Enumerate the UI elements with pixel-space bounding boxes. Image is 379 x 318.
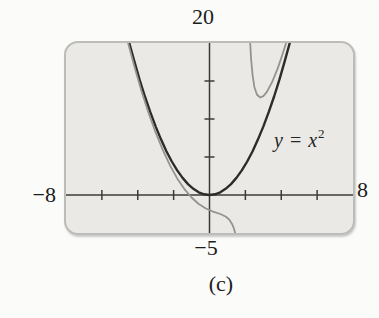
equation-exponent: 2 bbox=[318, 126, 325, 141]
figure-caption: (c) bbox=[200, 271, 242, 297]
x-min-label: −8 bbox=[18, 182, 56, 208]
rational-curve-branch bbox=[250, 43, 286, 98]
equation-base: x bbox=[308, 129, 317, 151]
y-min-label: −5 bbox=[188, 235, 224, 261]
y-max-label: 20 bbox=[185, 4, 221, 30]
rational-curve-branch bbox=[128, 43, 235, 233]
x-max-label: 8 bbox=[357, 177, 379, 203]
equation-label: y=x2 bbox=[274, 127, 324, 152]
equals-sign: = bbox=[283, 129, 308, 151]
equation-lhs: y bbox=[274, 129, 283, 151]
figure-panel: 20 y=x2 −8 8 −5 (c) bbox=[0, 0, 379, 318]
calculator-screen: y=x2 bbox=[64, 41, 355, 235]
